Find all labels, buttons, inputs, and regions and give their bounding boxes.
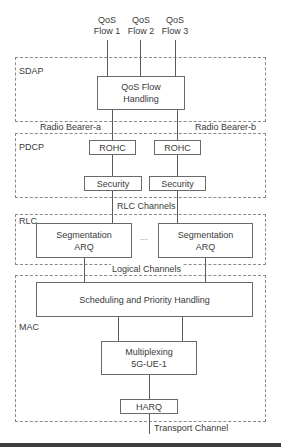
security-b-label: Security (161, 178, 194, 190)
flow-2-line (140, 40, 141, 76)
rlc-channel-b-line (177, 190, 178, 223)
qos-flow-1-line2: Flow 1 (90, 26, 124, 37)
qos-flow-handling-box: QoS Flow Handling (97, 76, 185, 110)
segmentation-b-line2: ARQ (196, 241, 216, 253)
segmentation-b-line1: Segmentation (178, 229, 234, 241)
qos-flow-handling-line2: Handling (123, 93, 159, 105)
qos-flow-1-line1: QoS (90, 15, 124, 26)
security-b-box: Security (149, 176, 206, 191)
radio-bearer-b-label: Radio Bearer-b (195, 122, 256, 132)
ellipsis-label: ... (140, 232, 148, 242)
multiplexing-line1: Multiplexing (125, 346, 173, 358)
bottom-divider (0, 443, 281, 447)
flow-1-line (107, 40, 108, 76)
transport-channel-label: Transport Channel (154, 423, 228, 433)
harq-box: HARQ (120, 399, 178, 414)
radio-bearer-a-label: Radio Bearer-a (40, 122, 101, 132)
qos-flow-handling-line1: QoS Flow (121, 81, 161, 93)
multiplexing-line2: 5G-UE-1 (131, 358, 167, 370)
mac-label: MAC (19, 322, 39, 332)
segmentation-b-box: Segmentation ARQ (158, 223, 253, 258)
security-a-box: Security (84, 176, 142, 191)
harq-label: HARQ (136, 401, 162, 413)
segmentation-a-line1: Segmentation (56, 229, 112, 241)
bearer-a-line (112, 110, 113, 140)
scheduling-box: Scheduling and Priority Handling (36, 282, 253, 317)
rohc-b-box: ROHC (154, 140, 201, 155)
segmentation-a-box: Segmentation ARQ (36, 223, 132, 258)
sdap-label: SDAP (19, 66, 44, 76)
rohc-a-box: ROHC (89, 140, 136, 155)
rlc-label: RLC (19, 216, 37, 226)
qos-flow-3-line1: QoS (158, 15, 192, 26)
sched-mux-b-line (182, 316, 183, 341)
bearer-b-line (177, 110, 178, 140)
rlc-channels-label: RLC Channels (117, 201, 176, 211)
qos-flow-1-label: QoS Flow 1 (90, 15, 124, 37)
logical-channels-label: Logical Channels (111, 264, 182, 274)
pdcp-label: PDCP (19, 142, 44, 152)
qos-flow-2-line1: QoS (124, 15, 158, 26)
qos-flow-2-line2: Flow 2 (124, 26, 158, 37)
sched-mux-a-line (118, 316, 119, 341)
transport-channel-line (149, 413, 150, 434)
segmentation-a-line2: ARQ (74, 241, 94, 253)
logical-channel-b-line (205, 257, 206, 282)
qos-flow-2-label: QoS Flow 2 (124, 15, 158, 37)
mux-harq-line (149, 374, 150, 399)
qos-flow-3-line2: Flow 3 (158, 26, 192, 37)
security-a-label: Security (97, 178, 130, 190)
rohc-a-label: ROHC (99, 142, 126, 154)
rohc-security-a-line (112, 154, 113, 176)
rohc-security-b-line (177, 154, 178, 176)
multiplexing-box: Multiplexing 5G-UE-1 (101, 341, 197, 375)
rlc-channel-a-line (112, 190, 113, 223)
scheduling-label: Scheduling and Priority Handling (79, 294, 210, 306)
rohc-b-label: ROHC (164, 142, 191, 154)
qos-flow-3-label: QoS Flow 3 (158, 15, 192, 37)
flow-3-line (175, 40, 176, 76)
logical-channel-a-line (84, 257, 85, 282)
